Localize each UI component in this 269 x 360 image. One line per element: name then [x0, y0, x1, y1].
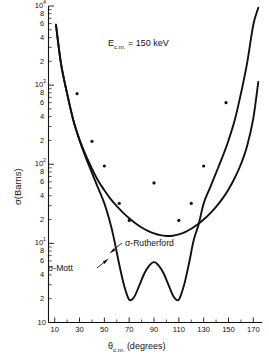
x-axis-tick-label: 150	[216, 326, 240, 334]
energy-annotation: Ec.m. = 150 keV	[108, 38, 169, 48]
mott-curve-label: σ-Mott	[48, 263, 73, 273]
y-axis-minor-label: 4	[22, 34, 44, 41]
y-axis-minor-label: 6	[22, 20, 44, 27]
data-point-marker	[152, 181, 155, 184]
y-axis-minor-label: 8	[22, 168, 44, 175]
y-axis-minor-label: 2	[22, 58, 44, 65]
y-axis-ticks	[49, 6, 55, 323]
y-axis-minor-label: 6	[22, 178, 44, 185]
energy-subscript: c.m.	[114, 44, 125, 50]
x-axis-tick-label: 170	[241, 326, 265, 334]
data-point-marker	[190, 202, 193, 205]
x-axis-ticks	[55, 318, 254, 323]
curve-mott	[56, 8, 258, 300]
x-axis-unit: (degrees)	[127, 341, 166, 351]
y-axis-minor-label: 4	[22, 271, 44, 278]
y-axis-minor-label: 4	[22, 113, 44, 120]
y-axis-minor-label: 8	[22, 247, 44, 254]
y-axis-minor-label: 4	[22, 192, 44, 199]
y-axis-minor-label: 8	[22, 10, 44, 17]
data-point-marker	[90, 140, 93, 143]
rutherford-curve-label: σ-Rutherford	[125, 238, 174, 248]
x-axis-tick-label: 90	[142, 326, 166, 334]
x-axis-tick-label: 110	[167, 326, 191, 334]
x-axis-tick-label: 70	[117, 326, 141, 334]
x-axis-title: θc.m. (degrees)	[108, 341, 165, 351]
x-axis-tick-label: 10	[43, 326, 67, 334]
y-axis-minor-label: 2	[22, 216, 44, 223]
plot-axes	[49, 6, 263, 323]
x-axis-subscript: c.m.	[113, 347, 124, 353]
x-axis-tick-label: 130	[192, 326, 216, 334]
y-axis-minor-label: 2	[22, 295, 44, 302]
y-axis-minor-label: 6	[22, 257, 44, 264]
curve-rutherford	[56, 25, 258, 236]
data-curves	[56, 8, 258, 300]
energy-equals: =	[128, 38, 133, 48]
data-point-marker	[177, 219, 180, 222]
data-point-marker	[128, 219, 131, 222]
data-point-marker	[75, 92, 78, 95]
data-point-marker	[224, 101, 227, 104]
figure-container: Ec.m. = 150 keV σ-Rutherford σ-Mott θc.m…	[0, 0, 269, 360]
x-axis-tick-label: 50	[92, 326, 116, 334]
y-axis-minor-label: 8	[22, 89, 44, 96]
y-axis-minor-label: 2	[22, 137, 44, 144]
data-point-marker	[118, 202, 121, 205]
data-point-marker	[202, 164, 205, 167]
x-axis-tick-label: 30	[68, 326, 92, 334]
y-axis-minor-label: 6	[22, 99, 44, 106]
data-point-marker	[103, 164, 106, 167]
energy-value: 150 keV	[136, 38, 169, 48]
